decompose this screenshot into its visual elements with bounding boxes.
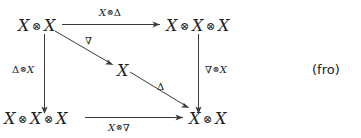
tensor-icon: ⊗ bbox=[115, 123, 123, 132]
node-bottom-left-x1: X bbox=[4, 109, 16, 128]
node-top-right: X⊗X⊗X bbox=[166, 18, 230, 34]
tensor-icon: ⊗ bbox=[16, 113, 30, 126]
arrow-top-horizontal bbox=[62, 21, 160, 27]
edge-label-diagonal-lower: Δ bbox=[157, 82, 164, 92]
commutative-diagram-figure: X⊗X X⊗X⊗X X X⊗X⊗X X⊗X X⊗Δ Δ⊗X ∇⊗X X⊗∇ ∇ … bbox=[0, 0, 361, 138]
tensor-icon: ⊗ bbox=[19, 65, 27, 74]
node-center-x1: X bbox=[117, 61, 129, 80]
equation-tag: (fro) bbox=[312, 63, 340, 76]
node-top-left: X⊗X bbox=[18, 18, 56, 34]
edge-label-top: X⊗Δ bbox=[99, 8, 121, 18]
tensor-icon: ⊗ bbox=[30, 20, 44, 33]
node-bottom-right-x2: X bbox=[215, 109, 227, 128]
edge-label-right: ∇⊗X bbox=[205, 65, 227, 75]
node-bottom-right-x1: X bbox=[189, 109, 201, 128]
tensor-icon: ⊗ bbox=[201, 113, 215, 126]
node-top-right-x1: X bbox=[166, 16, 178, 35]
edge-label-left: Δ⊗X bbox=[12, 65, 34, 75]
node-bottom-left-x3: X bbox=[56, 109, 68, 128]
tensor-icon: ⊗ bbox=[204, 20, 218, 33]
node-top-left-x1: X bbox=[18, 16, 30, 35]
tensor-icon: ⊗ bbox=[178, 20, 192, 33]
node-top-right-x3: X bbox=[218, 16, 230, 35]
tensor-icon: ⊗ bbox=[212, 65, 220, 74]
edge-label-diagonal-upper: ∇ bbox=[85, 36, 92, 46]
node-bottom-right: X⊗X bbox=[189, 111, 227, 127]
arrow-left-vertical bbox=[41, 34, 47, 114]
arrow-right-vertical bbox=[195, 34, 201, 114]
edge-label-bottom: X⊗∇ bbox=[108, 123, 130, 133]
tensor-icon: ⊗ bbox=[106, 8, 114, 17]
arrow-bottom-horizontal bbox=[85, 114, 183, 120]
node-bottom-left-x2: X bbox=[30, 109, 42, 128]
tensor-icon: ⊗ bbox=[42, 113, 56, 126]
node-top-right-x2: X bbox=[192, 16, 204, 35]
node-center: X bbox=[117, 63, 129, 79]
node-top-left-x2: X bbox=[44, 16, 56, 35]
node-bottom-left: X⊗X⊗X bbox=[4, 111, 68, 127]
